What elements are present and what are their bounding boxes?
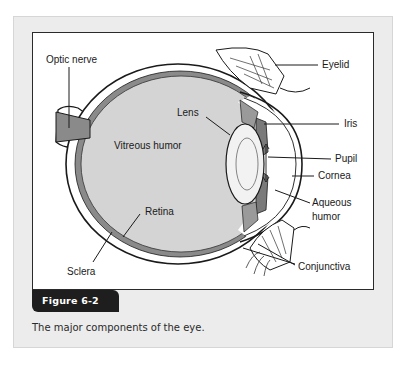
label-lens: Lens bbox=[177, 107, 199, 119]
label-aqueous-humor-line1: Aqueous bbox=[312, 197, 351, 209]
label-cornea: Cornea bbox=[318, 170, 351, 182]
label-conjunctiva: Conjunctiva bbox=[298, 261, 350, 273]
eyelash-upper bbox=[280, 88, 310, 92]
label-retina: Retina bbox=[145, 206, 174, 218]
label-optic-nerve: Optic nerve bbox=[46, 54, 97, 66]
label-iris: Iris bbox=[344, 118, 357, 130]
lower-lid-edge bbox=[294, 226, 310, 230]
label-sclera: Sclera bbox=[67, 266, 95, 278]
figure-tag: Figure 6-2 bbox=[32, 290, 119, 312]
label-vitreous-humor: Vitreous humor bbox=[114, 140, 182, 152]
figure-caption: The major components of the eye. bbox=[32, 322, 205, 333]
label-pupil: Pupil bbox=[335, 153, 357, 165]
label-aqueous-humor-line2: humor bbox=[312, 211, 340, 223]
label-eyelid: Eyelid bbox=[322, 59, 349, 71]
